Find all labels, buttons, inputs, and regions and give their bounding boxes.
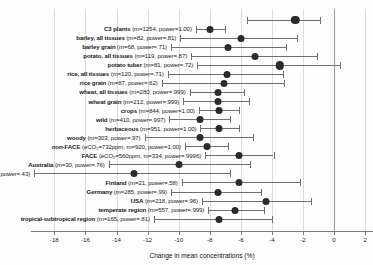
axis-tick	[179, 231, 180, 235]
row-label-name: barley grain	[82, 43, 115, 50]
row-label-stats: (m=218, power=.96)	[143, 197, 198, 204]
axis-tick-label: -6	[238, 236, 244, 243]
axis-tick	[148, 231, 149, 235]
row-label-name: rice grain	[80, 79, 106, 86]
row-label-stats: (m=212, power=.999)	[121, 98, 179, 105]
row-label-stats: (m=30, power=.76)	[53, 161, 104, 168]
row-label-stats: (m=844, power=1.00)	[137, 107, 195, 114]
axis-tick	[210, 231, 211, 235]
row-label-stats: (m=557, power=.999)	[146, 206, 204, 213]
row-label-name: wild	[96, 116, 107, 123]
row-label-stats: (m=68, power=.71)	[116, 43, 167, 50]
axis-tick-label: 0	[332, 236, 335, 243]
axis-tick-label: -4	[269, 236, 275, 243]
row-label-stats: (eCO₂=560ppm, m=334, power=.9996)	[97, 152, 201, 159]
axis-tick	[303, 231, 304, 235]
zero-reference-line	[334, 9, 335, 231]
row-label-name: C3 plants	[104, 25, 131, 32]
row-label-stats: (m=285, power=.99)	[112, 188, 167, 195]
row-label-name: potato, all tissues	[83, 52, 133, 59]
row-label-name: Germany	[87, 188, 113, 195]
row-label-stats: (m=120, power=.71)	[109, 70, 164, 77]
row-label-stats: (m=1254, power=1.00)	[131, 25, 192, 32]
axis-tick	[54, 231, 55, 235]
row-label-name: rice, all tissues	[67, 70, 109, 77]
confidence-interval-line	[197, 65, 340, 66]
ci-cap-lower	[154, 216, 155, 223]
confidence-interval-line	[154, 219, 272, 220]
row-label-stats: (eCO₂=732ppm, m=920, power=1.00)	[80, 143, 181, 150]
row-label-stats: (m=410, power=.997)	[107, 116, 165, 123]
axis-tick-label: -12	[143, 236, 152, 243]
row-label-stats: (m=303, power=.97)	[86, 134, 141, 141]
row-label-stats: (m=21, power=.58)	[126, 179, 177, 186]
row-label-stats: (m=280, power=.999)	[128, 88, 186, 95]
row-label-name: Finland	[105, 179, 126, 186]
axis-tick	[272, 231, 273, 235]
axis-tick-label: -16	[81, 236, 90, 243]
confidence-interval-line	[202, 201, 311, 202]
axis-tick-label: -18	[50, 236, 59, 243]
row-label-name: Australia	[28, 161, 53, 168]
row-label-name: barley, all tissues	[76, 34, 124, 41]
row-label-name: potato tuber	[108, 61, 142, 68]
axis-tick-label: -10	[174, 236, 183, 243]
row-label-name: USA	[131, 197, 144, 204]
row-label-name: tropical-subtropical region	[21, 215, 96, 222]
row-label-stats: (m=165, power=.81)	[95, 215, 150, 222]
data-point-marker	[216, 216, 223, 223]
axis-tick	[365, 231, 366, 235]
axis-tick-label: -8	[207, 236, 213, 243]
row-label-name: temperate region	[98, 206, 146, 213]
row-label-stats: (m=87, power=.62)	[106, 79, 157, 86]
row-label: tropical-subtropical region (m=165, powe…	[21, 213, 152, 225]
axis-tick	[117, 231, 118, 235]
row-label-name: wheat, all tissues	[79, 88, 127, 95]
forest-row: tropical-subtropical region (m=165, powe…	[31, 213, 373, 225]
row-label: China (m=45, power=.43)	[0, 168, 32, 180]
row-label-name: FACE	[81, 152, 97, 159]
forest-plot-figure: C3 plants (m=1254, power=1.00)barley, al…	[0, 0, 373, 265]
row-label-name: wheat grain	[89, 98, 122, 105]
x-axis-title: Change in mean concentrations (%)	[31, 252, 373, 259]
confidence-interval-line	[247, 20, 320, 21]
axis-tick-label: 2	[363, 236, 366, 243]
row-label-stats: (m=45, power=.43)	[0, 170, 30, 177]
axis-tick	[85, 231, 86, 235]
axis-tick-label: -2	[300, 236, 306, 243]
row-label-stats: (m=82, power=.81)	[125, 34, 176, 41]
row-label-name: herbaceous	[105, 125, 138, 132]
row-label-stats: (m=119, power=.87)	[133, 52, 187, 59]
axis-tick-label: -14	[112, 236, 121, 243]
row-label-name: woody	[67, 134, 86, 141]
plot-area: C3 plants (m=1254, power=1.00)barley, al…	[31, 9, 373, 231]
axis-tick	[334, 231, 335, 235]
row-label-name: crops	[121, 107, 137, 114]
axis-tick	[241, 231, 242, 235]
row-label-stats: (m=81, power=.72)	[142, 61, 193, 68]
row-label-stats: (m=951, power=1.00)	[138, 125, 196, 132]
x-axis-line	[31, 231, 373, 232]
row-label-name: non-FACE	[52, 143, 81, 150]
ci-cap-upper	[272, 216, 273, 223]
